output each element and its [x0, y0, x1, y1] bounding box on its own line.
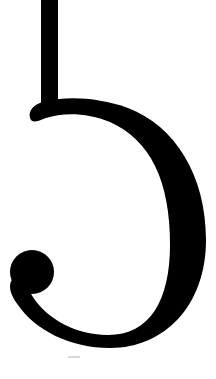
glyph-ball-terminal	[10, 250, 54, 294]
glyph-faint-mark	[68, 356, 80, 358]
glyph-letterform-icon	[0, 0, 216, 379]
glyph-bowl	[10, 98, 206, 348]
glyph-stem	[41, 0, 58, 106]
